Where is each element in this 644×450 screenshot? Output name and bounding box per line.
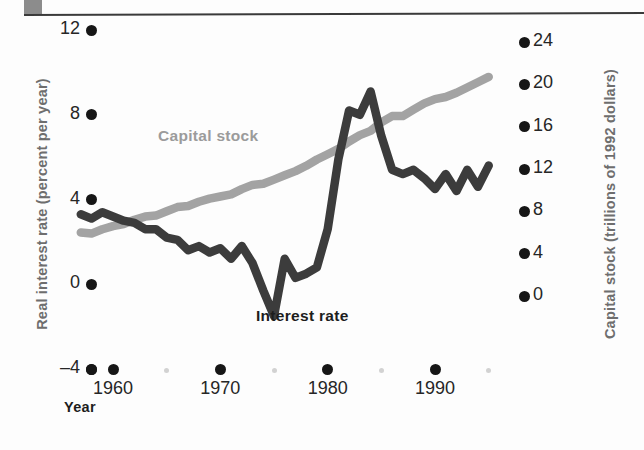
series-label-capital-stock: Capital stock: [158, 127, 258, 145]
y-tick-label-right: 12: [533, 157, 577, 178]
y-tick-label-right: 8: [533, 199, 577, 220]
y-tick-label-left: –4: [36, 357, 80, 378]
tick-dot-major: [519, 37, 530, 48]
tick-dot-major: [519, 206, 530, 217]
tick-dot-major: [519, 291, 530, 302]
tick-dot-major: [519, 164, 530, 175]
interest-rate-line: [81, 91, 489, 316]
capital-stock-line: [81, 77, 489, 234]
chart-figure: 12840–4 24201612840 1960197019801990 Rea…: [0, 0, 644, 450]
y-axis-right-title: Capital stock (trillions of 1992 dollars…: [602, 54, 618, 354]
y-tick-label-right: 20: [533, 72, 577, 93]
y-tick-label-right: 0: [533, 284, 577, 305]
x-tick-label: 1990: [395, 378, 475, 399]
tick-dot-major: [519, 79, 530, 90]
tick-dot-major: [215, 364, 226, 375]
tick-dot-major: [86, 109, 97, 120]
x-axis-title: Year: [64, 399, 96, 415]
y-axis-left-title: Real interest rate (percent per year): [34, 69, 50, 339]
tick-dot-minor: [272, 368, 277, 373]
tick-dot-major: [108, 364, 119, 375]
tick-dot-major: [430, 364, 441, 375]
tick-dot-major: [86, 279, 97, 290]
tick-dot-major: [519, 248, 530, 259]
tick-dot-major: [86, 364, 97, 375]
series-label-interest-rate: Interest rate: [256, 307, 349, 325]
x-tick-label: 1960: [73, 378, 153, 399]
y-tick-label-right: 4: [533, 242, 577, 263]
tick-dot-major: [86, 194, 97, 205]
tick-dot-major: [322, 364, 333, 375]
tick-dot-major: [86, 25, 97, 36]
tick-dot-minor: [486, 368, 491, 373]
tick-dot-minor: [164, 368, 169, 373]
y-tick-label-left: 12: [36, 18, 80, 39]
x-tick-label: 1970: [180, 378, 260, 399]
x-tick-label: 1980: [288, 378, 368, 399]
tick-dot-major: [519, 121, 530, 132]
y-tick-label-right: 24: [533, 30, 577, 51]
tick-dot-minor: [379, 368, 384, 373]
y-tick-label-right: 16: [533, 115, 577, 136]
